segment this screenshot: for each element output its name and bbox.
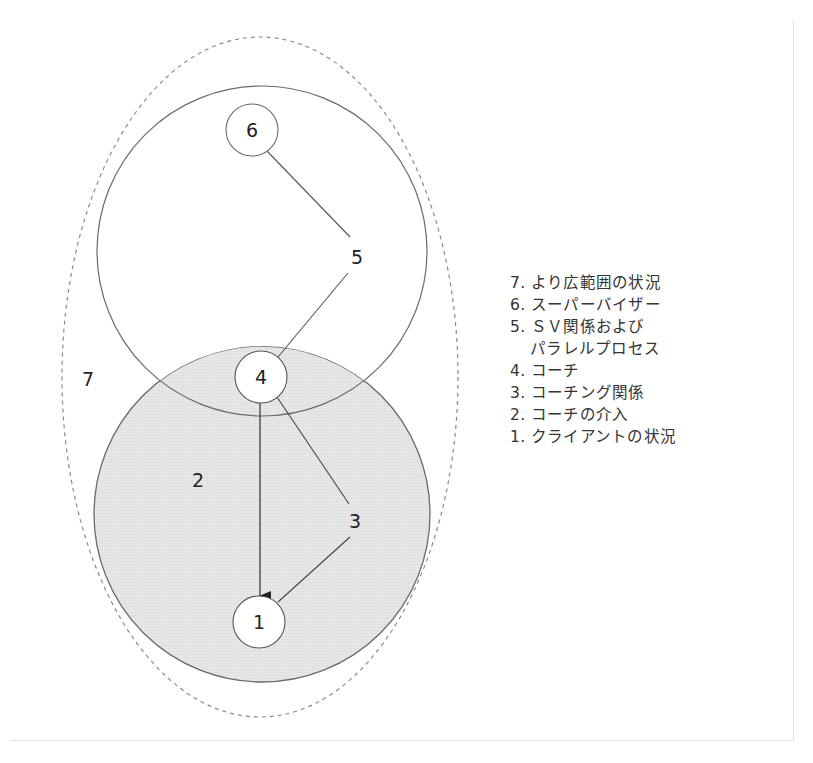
- node-4-label: 4: [255, 366, 267, 388]
- node-3-label: 3: [349, 510, 361, 532]
- node-1-label: 1: [253, 611, 265, 633]
- node-7-label: 7: [82, 368, 94, 390]
- legend-item-3: 3. コーチング関係: [510, 382, 676, 404]
- node-5-label: 5: [351, 246, 363, 268]
- legend-item-5: 5. ＳＶ関係および: [510, 316, 676, 338]
- legend-item-1: 1. クライアントの状況: [510, 426, 676, 448]
- node-2-label: 2: [192, 469, 204, 491]
- diagram-canvas: 6 5 4 3 2 1 7: [0, 0, 813, 763]
- frame-border-right: [793, 20, 794, 741]
- node-6-label: 6: [246, 119, 258, 141]
- legend-item-2: 2. コーチの介入: [510, 404, 676, 426]
- legend-item-5-continuation: パラレルプロセス: [510, 338, 676, 360]
- legend-item-7: 7. より広範囲の状況: [510, 272, 676, 294]
- legend-item-6: 6. スーパーバイザー: [510, 294, 676, 316]
- legend-item-4: 4. コーチ: [510, 360, 676, 382]
- frame-border-bottom: [10, 740, 794, 741]
- legend: 7. より広範囲の状況 6. スーパーバイザー 5. ＳＶ関係および パラレルプ…: [510, 272, 676, 448]
